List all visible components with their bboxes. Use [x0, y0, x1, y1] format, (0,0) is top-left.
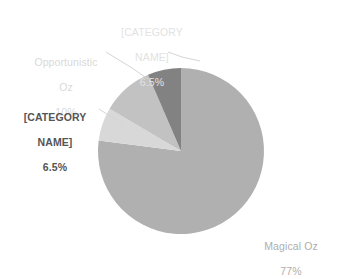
- pie-label-category-top: [CATEGORY NAME] 6.5%: [107, 14, 197, 101]
- pie-label-magical-oz-percent: 77%: [249, 265, 333, 277]
- pie-label-category-left: [CATEGORY NAME] 6.5%: [3, 99, 107, 186]
- pie-label-category-left-percent: 6.5%: [3, 161, 107, 173]
- pie-label-category-top-percent: 6.5%: [107, 76, 197, 88]
- pie-label-category-left-name-line2: NAME]: [3, 136, 107, 148]
- pie-label-magical-oz-name: Magical Oz: [249, 240, 333, 252]
- pie-label-opportunistic-oz-name-line1: Opportunistic: [14, 56, 118, 68]
- pie-label-category-top-name-line2: NAME]: [107, 51, 197, 63]
- pie-label-category-left-name-line1: [CATEGORY: [3, 111, 107, 123]
- pie-label-magical-oz: Magical Oz 77%: [249, 228, 333, 279]
- pie-label-category-top-name-line1: [CATEGORY: [107, 26, 197, 38]
- pie-label-opportunistic-oz-name-line2: Oz: [14, 81, 118, 93]
